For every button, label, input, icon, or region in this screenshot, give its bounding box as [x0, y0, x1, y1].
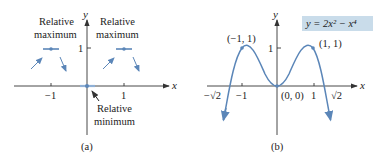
caption-b: (b) — [271, 141, 284, 153]
min-point — [85, 84, 89, 88]
min-pointer-arrow — [92, 91, 99, 101]
label-left-max-2: maximum — [34, 29, 77, 40]
tick-label-neg1-a: −1 — [45, 90, 56, 101]
x-axis-label-a: x — [171, 79, 177, 91]
label-right-max-1: Relative — [100, 16, 135, 27]
figure-canvas: y x −1 1 1 Relative maximum Relative max… — [0, 0, 379, 161]
tick-label-y1-a: 1 — [78, 43, 83, 54]
y-axis-label-a: y — [82, 8, 88, 20]
point-origin — [275, 84, 279, 88]
left-max-point — [49, 47, 53, 51]
label-min-2: minimum — [94, 116, 135, 127]
pos-root-label: √2 — [331, 90, 342, 101]
increasing-arrow-left — [31, 58, 42, 69]
tick-label-1-b: 1 — [311, 90, 316, 101]
tick-label-y1-b: 1 — [268, 43, 273, 54]
right-max-point — [122, 47, 126, 51]
point-right-max — [311, 46, 315, 50]
tick-label-1-a: 1 — [121, 90, 126, 101]
x-axis-label-b: x — [359, 79, 365, 91]
label-left-max-1: Relative — [39, 16, 74, 27]
label-point-right-max: (1, 1) — [319, 38, 342, 50]
caption-a: (a) — [81, 141, 93, 153]
label-point-left-max: (−1, 1) — [227, 33, 256, 45]
label-min-1: Relative — [97, 103, 132, 114]
neg-root-label: −√2 — [204, 90, 221, 101]
label-right-max-2: maximum — [96, 29, 139, 40]
panel-b: y x −1 1 1 −√2 √2 (−1, 1) (1, 1) (0, 0) … — [204, 8, 373, 153]
label-point-origin: (0, 0) — [281, 90, 304, 102]
decreasing-arrow-right — [133, 57, 139, 71]
decreasing-arrow-left — [60, 57, 66, 71]
point-left-max — [240, 46, 244, 50]
equation-label: y = 2x² − x⁴ — [305, 18, 357, 29]
increasing-arrow-right — [103, 58, 114, 69]
tick-label-neg1-b: −1 — [236, 90, 247, 101]
panel-a: y x −1 1 1 Relative maximum Relative max… — [14, 8, 177, 153]
y-axis-label-b: y — [272, 8, 278, 20]
